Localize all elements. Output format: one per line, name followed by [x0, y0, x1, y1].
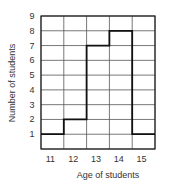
x-axis-label: Age of students: [77, 170, 140, 180]
histogram-chart: 123456789 1112131415 Age of students Num…: [0, 0, 169, 190]
x-tick-label: 15: [137, 154, 147, 164]
y-tick-label: 1: [29, 129, 34, 139]
x-tick-label: 14: [114, 154, 124, 164]
y-tick-label: 9: [29, 11, 34, 21]
y-tick-label: 2: [29, 114, 34, 124]
y-axis-label: Number of students: [7, 43, 17, 122]
grid: [41, 16, 155, 149]
x-tick-label: 12: [68, 154, 78, 164]
y-tick-label: 3: [29, 100, 34, 110]
y-tick-label: 7: [29, 41, 34, 51]
y-tick-label: 4: [29, 85, 34, 95]
y-tick-label: 5: [29, 70, 34, 80]
y-axis-ticks: 123456789: [29, 11, 34, 139]
x-tick-label: 13: [91, 154, 101, 164]
x-axis-ticks: 1112131415: [46, 154, 147, 164]
data-step-line: [41, 31, 155, 134]
y-tick-label: 6: [29, 55, 34, 65]
x-tick-label: 11: [46, 154, 55, 164]
y-tick-label: 8: [29, 26, 34, 36]
